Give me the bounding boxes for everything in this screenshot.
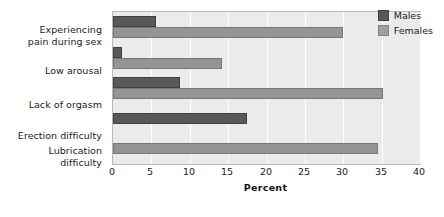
x-axis-tick-label: 10 — [174, 166, 204, 177]
x-axis-title: Percent — [112, 182, 419, 193]
legend-label-females: Females — [394, 25, 433, 36]
bar-females-lubrication-difficulty — [113, 143, 378, 154]
y-axis-label-low-arousal: Low arousal — [0, 65, 102, 77]
y-axis-label-line1: Lubrication — [48, 145, 102, 156]
y-axis-label-line1: Lack of orgasm — [29, 99, 102, 110]
y-axis-label-line2: difficulty — [60, 157, 102, 168]
legend: Males Females — [375, 6, 437, 40]
bar-females-lack-of-orgasm — [113, 88, 383, 99]
bar-males-experiencing-pain-during-sex — [113, 16, 156, 27]
x-axis-tick-label: 15 — [212, 166, 242, 177]
legend-item-males: Males — [378, 8, 433, 22]
bar-females-low-arousal — [113, 58, 222, 69]
x-axis-tick-label: 20 — [251, 166, 281, 177]
y-axis-label-line1: Erection difficulty — [18, 130, 102, 141]
bar-males-low-arousal — [113, 47, 122, 58]
y-axis-label-line1: Low arousal — [45, 65, 102, 76]
legend-item-females: Females — [378, 23, 433, 37]
x-axis-tick-label: 30 — [327, 166, 357, 177]
bar-males-lack-of-orgasm — [113, 77, 180, 88]
y-axis-label-experiencing-pain-during-sex: Experiencing pain during sex — [0, 24, 102, 47]
y-axis-label-lubrication-difficulty: Lubrication difficulty — [0, 145, 102, 168]
x-axis-tick-label: 40 — [404, 166, 434, 177]
x-axis-tick-label: 5 — [135, 166, 165, 177]
x-axis-tick-label: 0 — [97, 166, 127, 177]
y-axis-labels: Experiencing pain during sex Low arousal… — [0, 11, 107, 163]
bar-females-experiencing-pain-during-sex — [113, 27, 343, 38]
y-axis-label-line2: pain during sex — [28, 36, 102, 47]
y-axis-label-lack-of-orgasm: Lack of orgasm — [0, 99, 102, 111]
y-axis-label-erection-difficulty: Erection difficulty — [0, 130, 102, 142]
legend-swatch-females-icon — [378, 25, 389, 36]
bar-males-erection-difficulty — [113, 113, 247, 124]
bar-chart: Experiencing pain during sex Low arousal… — [0, 0, 444, 217]
legend-swatch-males-icon — [378, 10, 389, 21]
x-axis-tick-label: 35 — [366, 166, 396, 177]
y-axis-label-line1: Experiencing — [40, 24, 102, 35]
legend-label-males: Males — [394, 10, 421, 21]
x-axis-ticks: 0510152025303540 — [112, 166, 419, 180]
x-axis-tick-label: 25 — [289, 166, 319, 177]
